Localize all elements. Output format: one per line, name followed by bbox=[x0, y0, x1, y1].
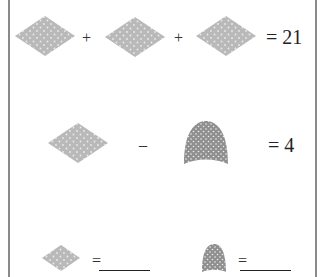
diamond-icon bbox=[41, 244, 81, 272]
answer-diamond-equals: = bbox=[92, 253, 101, 269]
answer-arch-blank[interactable] bbox=[240, 270, 291, 271]
answer-diamond-blank[interactable] bbox=[99, 270, 150, 271]
equation-1-result: = 21 bbox=[266, 27, 302, 47]
plus-operator: + bbox=[82, 30, 91, 46]
plus-operator: + bbox=[174, 30, 183, 46]
answer-arch-equals: = bbox=[238, 253, 247, 269]
arch-icon bbox=[201, 243, 227, 273]
diamond-icon bbox=[195, 15, 257, 57]
arch-icon bbox=[182, 120, 230, 165]
diamond-icon bbox=[104, 16, 166, 58]
minus-operator: – bbox=[139, 137, 147, 153]
diamond-icon bbox=[47, 122, 109, 164]
diamond-icon bbox=[14, 15, 76, 57]
equation-2-result: = 4 bbox=[268, 135, 294, 155]
